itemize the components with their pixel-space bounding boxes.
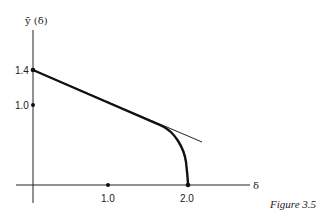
point-x-2-0: [186, 183, 191, 188]
x-axis-label: δ: [253, 180, 259, 191]
x-tick-2-0: 2.0: [180, 193, 194, 204]
y-bar-delta-curve: [33, 70, 188, 185]
y-tick-1-0: 1.0: [15, 100, 29, 111]
x-tick-1-0: 1.0: [101, 193, 115, 204]
y-axis-label: ȳ (δ): [24, 15, 48, 26]
figure-caption: Figure 3.5: [269, 198, 317, 210]
point-y-1-0: [31, 103, 35, 107]
point-y-1-4: [31, 68, 36, 73]
figure-3-5-chart: 1.4 1.0 1.0 2.0 ȳ (δ) δ Figure 3.5: [0, 0, 326, 220]
y-tick-1-4: 1.4: [15, 65, 29, 76]
point-x-1-0: [106, 183, 110, 187]
